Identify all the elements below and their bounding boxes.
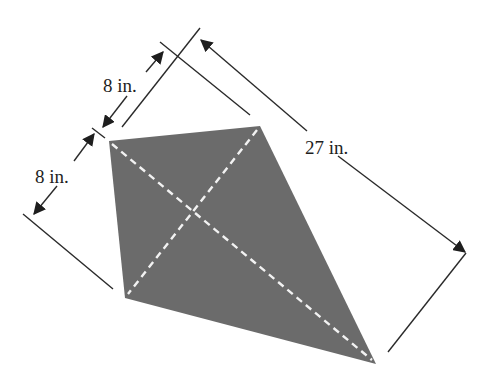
arrow-27in-down	[338, 156, 465, 252]
kite-diagram: 8 in. 8 in. 27 in.	[0, 0, 485, 382]
label-upper-8in: 8 in.	[103, 75, 137, 96]
arrow-upper-8in-up	[146, 52, 163, 72]
arrow-27in-up	[201, 40, 307, 131]
arrow-upper-8in-down	[103, 96, 127, 127]
label-27in: 27 in.	[305, 137, 348, 158]
tick-27in-bottom	[388, 253, 466, 352]
kite-shape	[109, 126, 376, 364]
label-left-8in: 8 in.	[35, 166, 69, 187]
tick-top-left-corner	[92, 128, 105, 138]
arrow-left-8in-up	[74, 134, 94, 161]
tick-left-lower	[23, 214, 113, 289]
tick-upper	[160, 42, 250, 115]
arrow-left-8in-down	[34, 186, 57, 214]
